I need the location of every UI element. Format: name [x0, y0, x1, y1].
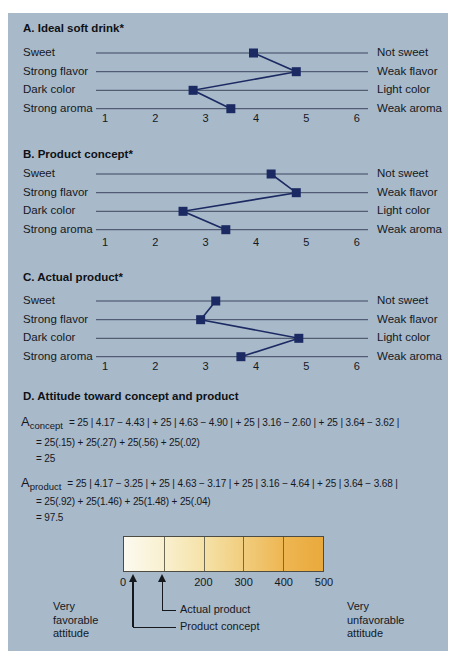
attitude-scale-tick: 400 — [270, 575, 298, 589]
axis-tick-label: 3 — [195, 111, 217, 125]
axis-tick-label: 4 — [245, 359, 267, 373]
axis-tick-label: 5 — [295, 359, 317, 373]
data-point-marker — [211, 297, 220, 306]
pointer-stem-line — [162, 581, 163, 610]
axis-tick-label: 6 — [346, 235, 368, 249]
axis-tick-label: 2 — [144, 235, 166, 249]
data-point-marker — [292, 67, 301, 76]
attitude-scale-tick: 300 — [230, 575, 258, 589]
data-point-marker — [294, 334, 303, 343]
axis-tick-label: 5 — [295, 235, 317, 249]
data-point-marker — [189, 86, 198, 95]
profile-polyline — [201, 301, 299, 357]
gradient-cell-divider — [243, 537, 244, 571]
axis-tick-label: 2 — [144, 111, 166, 125]
pointer-label-product-concept: Product concept — [180, 620, 260, 633]
section-c-title: C. Actual product* — [23, 271, 123, 283]
axis-tick-label: 4 — [245, 111, 267, 125]
gradient-cell-divider — [204, 537, 205, 571]
data-point-marker — [249, 49, 258, 58]
favorable-attitude-label: Very favorable attitude — [53, 600, 98, 641]
axis-tick-label: 1 — [94, 235, 116, 249]
axis-tick-label: 3 — [195, 359, 217, 373]
data-point-marker — [226, 104, 235, 113]
formula-product-line3: = 97.5 — [36, 511, 63, 524]
data-point-marker — [292, 188, 301, 197]
axis-tick-label: 6 — [346, 111, 368, 125]
section-a-title: A. Ideal soft drink* — [23, 22, 124, 34]
profile-polyline — [193, 53, 296, 109]
formula-concept-line3: = 25 — [36, 452, 55, 465]
pointer-label-actual-product: Actual product — [180, 603, 250, 616]
gradient-cell-divider — [283, 537, 284, 571]
pointer-connector-line — [133, 627, 176, 628]
axis-tick-label: 2 — [144, 359, 166, 373]
axis-tick-label: 1 — [94, 111, 116, 125]
attitude-subscript-concept: concept — [30, 420, 63, 431]
attitude-scale-tick: 500 — [310, 575, 338, 589]
data-point-marker — [221, 225, 230, 234]
formula-product-line1: = 25 | 4.17 − 3.25 | + 25 | 4.63 − 3.17 … — [67, 478, 397, 489]
profile-plot-b — [8, 162, 448, 242]
figure-panel: A. Ideal soft drink* B. Product concept*… — [8, 13, 448, 651]
axis-tick-label: 1 — [94, 359, 116, 373]
data-point-marker — [179, 207, 188, 216]
attitude-subscript-product: product — [30, 481, 62, 492]
attitude-gradient-bar — [123, 536, 324, 572]
profile-plot-a — [8, 41, 448, 121]
profile-plot-c — [8, 289, 448, 369]
unfavorable-attitude-label: Very unfavorable attitude — [347, 600, 405, 641]
pointer-stem-line — [132, 581, 133, 627]
axis-tick-label: 5 — [295, 111, 317, 125]
formula-product-line2: = 25(.92) + 25(1.46) + 25(1.48) + 25(.04… — [36, 495, 211, 508]
profile-polyline — [183, 174, 296, 230]
gradient-cell-divider — [164, 537, 165, 571]
axis-tick-label: 3 — [195, 235, 217, 249]
formula-product-head: Aproduct= 25 | 4.17 − 3.25 | + 25 | 4.63… — [21, 476, 398, 490]
formula-concept-line1: = 25 | 4.17 − 4.43 | + 25 | 4.63 − 4.90 … — [69, 417, 399, 428]
section-b-title: B. Product concept* — [23, 148, 133, 160]
section-d-title: D. Attitude toward concept and product — [23, 390, 239, 402]
attitude-variable: A — [21, 414, 30, 429]
axis-tick-label: 6 — [346, 359, 368, 373]
axis-tick-label: 4 — [245, 235, 267, 249]
attitude-scale-tick: 200 — [189, 575, 217, 589]
pointer-connector-line — [162, 610, 176, 611]
data-point-marker — [196, 315, 205, 324]
attitude-variable: A — [21, 475, 30, 490]
data-point-marker — [267, 170, 276, 179]
formula-concept-head: Aconcept= 25 | 4.17 − 4.43 | + 25 | 4.63… — [21, 415, 399, 429]
formula-concept-line2: = 25(.15) + 25(.27) + 25(.56) + 25(.02) — [36, 436, 200, 449]
